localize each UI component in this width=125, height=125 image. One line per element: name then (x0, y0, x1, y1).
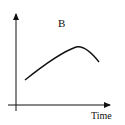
curve (25, 47, 99, 80)
curve-label: B (58, 17, 65, 29)
graph-diagram: B Time (0, 0, 125, 125)
x-axis-label: Time (91, 110, 112, 121)
